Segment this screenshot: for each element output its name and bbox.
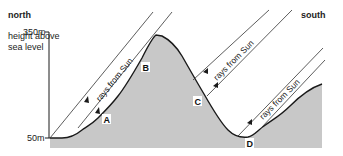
ray-label-2: rays from Sun — [211, 38, 256, 83]
point-d-label: D — [247, 139, 254, 149]
tick-label-50: 50m — [27, 133, 45, 143]
point-b-label: B — [143, 63, 150, 73]
ray-arrow-icon — [95, 107, 100, 114]
point-c-label: C — [195, 97, 202, 107]
point-a-label: A — [104, 115, 111, 125]
ray-arrow-icon — [84, 96, 89, 103]
sun-angle-diagram: 350m 50m rays from Sun rays from Sun ray… — [0, 0, 343, 156]
tick-label-350: 350m — [23, 27, 46, 37]
